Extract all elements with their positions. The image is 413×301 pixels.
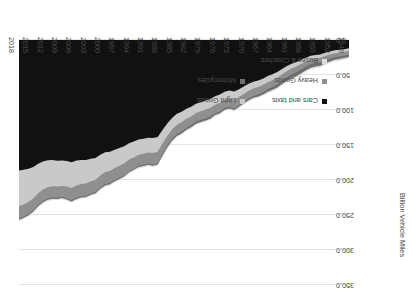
x-axis-tick-label: 2009 [50,37,59,53]
legend-row: Buses & Coaches [99,45,327,65]
x-axis-tick-label: 2018 [7,37,16,53]
legend-label-heavy-goods: Heavy Goods [274,76,318,85]
y-axis-title: Billion Vehicle Miles [398,193,407,257]
x-axis-tick-label: 2012 [36,37,45,53]
legend-swatch-heavy-goods [322,79,327,84]
x-axis-tick-label: 2015 [21,37,30,53]
x-axis-tick-label: 1949 [337,37,346,53]
x-axis-tick-label: 2006 [64,37,73,53]
x-axis-tick-label: 2003 [79,37,88,53]
y-axis-tick-label: 250.0 [336,211,380,219]
legend-swatch-motorcycles [240,79,245,84]
y-axis-tick-label: 50.0 [336,71,380,79]
legend-item-motorcycles[interactable]: Motorcycles [198,76,245,85]
legend-row: Cars and taxis Light Goods [99,85,327,105]
legend-label-buses-and-coaches: Buses & Coaches [261,56,318,65]
legend-item-light-goods[interactable]: Light Goods [197,96,245,105]
legend-item-buses-and-coaches[interactable]: Buses & Coaches [261,56,327,65]
legend-label-light-goods: Light Goods [197,96,236,105]
legend-label-motorcycles: Motorcycles [198,76,236,85]
chart-screenshot: 0.050.0100.0150.0200.0250.0300.0350.0 Bi… [0,0,413,301]
y-axis-tick-label: 100.0 [336,106,380,114]
legend: Cars and taxis Light Goods Heavy Goods M… [99,45,327,105]
y-axis-tick-label: 350.0 [336,281,380,289]
y-axis-tick-label: 300.0 [336,246,380,254]
legend-swatch-light-goods [240,99,245,104]
y-axis-tick-label: 150.0 [336,141,380,149]
legend-swatch-buses-and-coaches [322,59,327,64]
legend-label-cars-and-taxis: Cars and taxis [272,96,318,105]
legend-swatch-cars-and-taxis [322,99,327,104]
legend-item-cars-and-taxis[interactable]: Cars and taxis [272,96,327,105]
legend-row: Heavy Goods Motorcycles [99,65,327,85]
chart-figure: 0.050.0100.0150.0200.0250.0300.0350.0 Bi… [0,0,413,301]
legend-item-heavy-goods[interactable]: Heavy Goods [274,76,327,85]
y-axis-tick-label: 200.0 [336,176,380,184]
